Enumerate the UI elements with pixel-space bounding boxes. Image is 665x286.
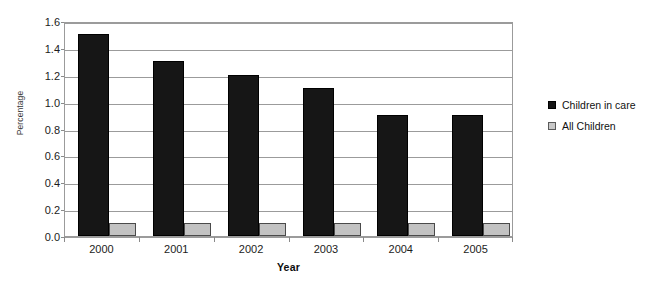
bar	[153, 61, 184, 236]
bar	[408, 223, 435, 236]
y-axis-tick-label: 0.8	[26, 124, 60, 136]
bar-group	[290, 23, 365, 236]
legend-label: All Children	[562, 120, 616, 132]
x-axis-tick-mark	[363, 237, 364, 242]
x-axis-tick-mark	[139, 237, 140, 242]
legend-label: Children in care	[562, 99, 636, 111]
bar	[483, 223, 510, 236]
bar	[228, 75, 259, 236]
bar-group	[364, 23, 439, 236]
bar	[259, 223, 286, 236]
bars-layer	[65, 23, 512, 236]
chart-legend: Children in careAll Children	[548, 96, 663, 138]
y-axis-tick-label: 0.0	[26, 231, 60, 243]
y-axis-tick-label: 1.6	[26, 16, 60, 28]
y-axis-title: Percentage	[15, 63, 25, 163]
bar-group	[439, 23, 514, 236]
bar	[109, 223, 136, 236]
bar	[184, 223, 211, 236]
plot-area	[64, 22, 513, 237]
legend-swatch-icon	[548, 101, 556, 109]
x-axis-tick-mark	[214, 237, 215, 242]
legend-item[interactable]: Children in care	[548, 96, 663, 113]
bar-chart: Percentage 0.00.20.40.60.81.01.21.41.6 2…	[0, 0, 665, 286]
x-axis-tick-mark	[438, 237, 439, 242]
x-axis-tick-label: 2003	[314, 243, 338, 255]
x-axis-tick-label: 2000	[89, 243, 113, 255]
x-axis-tick-mark	[289, 237, 290, 242]
x-axis-tick-mark	[512, 237, 513, 242]
bar-group	[140, 23, 215, 236]
y-axis-tick-label: 0.2	[26, 204, 60, 216]
y-axis-tick-labels: 0.00.20.40.60.81.01.21.41.6	[26, 22, 60, 237]
y-axis-tick-label: 0.4	[26, 177, 60, 189]
x-axis-tick-mark	[64, 237, 65, 242]
legend-item[interactable]: All Children	[548, 117, 663, 134]
bar	[334, 223, 361, 236]
bar	[377, 115, 408, 236]
bar	[78, 34, 109, 236]
x-axis-tick-labels: 200020012002200320042005	[64, 243, 513, 259]
bar	[452, 115, 483, 236]
y-axis-tick-label: 0.6	[26, 150, 60, 162]
x-axis-tick-label: 2005	[463, 243, 487, 255]
x-axis-title: Year	[64, 261, 513, 273]
bar-group	[65, 23, 140, 236]
y-axis-tick-label: 1.2	[26, 70, 60, 82]
y-axis-tick-label: 1.0	[26, 97, 60, 109]
x-axis-tick-label: 2002	[239, 243, 263, 255]
y-axis-tick-label: 1.4	[26, 43, 60, 55]
bar-group	[215, 23, 290, 236]
bar	[303, 88, 334, 236]
x-axis-tick-label: 2004	[389, 243, 413, 255]
x-axis-tick-label: 2001	[164, 243, 188, 255]
legend-swatch-icon	[548, 122, 556, 130]
